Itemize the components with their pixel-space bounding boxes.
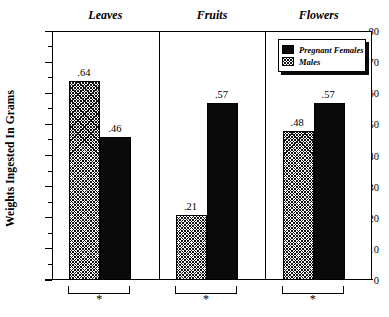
significance-marker: * [96,295,102,303]
bar-fruits-males [176,215,207,280]
y-axis-tick-major [45,124,52,125]
y-axis-tick-major [45,93,52,94]
bar-leaves-pregnant-females [100,137,131,280]
legend-swatch-pregnant-females [282,45,294,54]
bar-chart-figure: Weights Ingested In Grams .80.70.60.50.4… [0,0,389,317]
bar-value-label: .64 [77,67,90,78]
bar-flowers-pregnant-females [314,103,345,280]
panel-divider [265,31,266,280]
bar-value-label: .21 [184,201,197,212]
panel-divider [159,31,160,280]
legend-swatch-males [282,57,294,66]
legend-entry: Pregnant Females [282,44,361,55]
y-axis-tick-major [45,186,52,187]
y-axis-tick-major [45,248,52,249]
panel-title-leaves: Leaves [52,8,159,23]
bar-flowers-males [283,131,314,280]
y-axis-tick-major [45,155,52,156]
bar-value-label: .48 [291,117,304,128]
panel-title-flowers: Flowers [265,8,372,23]
legend-entry: Males [282,56,361,67]
y-axis-tick-major [45,62,52,63]
bar-value-label: .57 [215,89,228,100]
chart-legend: Pregnant Females Males [278,39,366,72]
y-axis-tick-major [45,31,52,32]
bar-leaves-males [69,81,100,280]
bar-fruits-pregnant-females [207,103,238,280]
x-axis-baseline [45,279,373,280]
y-axis-tick-major [45,217,52,218]
y-axis-title: Weights Ingested In Grams [0,0,20,317]
bar-value-label: .46 [108,123,121,134]
panel-title-fruits: Fruits [159,8,266,23]
legend-label-pregnant-females: Pregnant Females [299,45,363,55]
legend-label-males: Males [299,57,320,67]
significance-marker: * [310,295,316,303]
bar-value-label: .57 [322,89,335,100]
significance-marker: * [203,295,209,303]
